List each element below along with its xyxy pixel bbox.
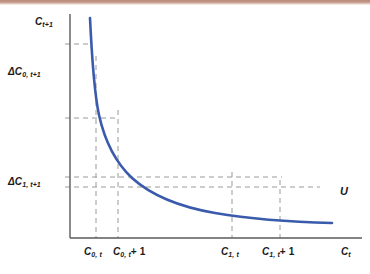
- x-axis-title: Ct: [341, 246, 351, 257]
- curve-label-u: U: [340, 185, 348, 197]
- figure-canvas: Ct+1 ΔC0, t+1 ΔC1, t+1 C0, t C0, t+ 1 C1…: [0, 0, 370, 274]
- y-axis-title: Ct+1: [35, 16, 53, 27]
- x-tick-c1t: C1, t: [221, 246, 239, 257]
- x-tick-c0t: C0, t: [84, 246, 102, 257]
- y-tick-delta-c1: ΔC1, t+1: [8, 176, 41, 187]
- x-tick-c1t-plus-1: C1, t+ 1: [262, 246, 294, 257]
- horizontal-guides: [65, 44, 320, 187]
- x-tick-c0t-plus-1: C0, t+ 1: [113, 246, 145, 257]
- vertical-guides: [96, 56, 280, 238]
- indifference-curve-u: [90, 18, 332, 223]
- y-tick-delta-c0: ΔC0, t+1: [8, 66, 41, 77]
- indifference-curve-plot: [0, 0, 370, 274]
